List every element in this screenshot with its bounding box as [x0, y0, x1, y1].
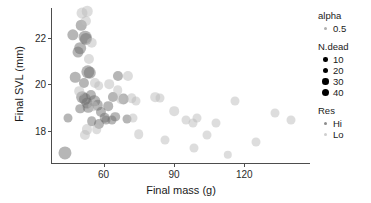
scatter-point [87, 37, 98, 48]
scatter-point [75, 104, 85, 114]
scatter-point [113, 71, 123, 81]
scatter-point [58, 146, 71, 159]
legend-label: 40 [333, 87, 344, 98]
x-axis-line [51, 163, 310, 164]
y-tick-label: 22 [35, 33, 46, 44]
x-tick-label: 60 [98, 169, 109, 180]
scatter-plot-figure: Final SVL (mm) 182022 6090120 Final mass… [0, 0, 371, 203]
scatter-point [132, 96, 141, 105]
scatter-point [67, 29, 78, 40]
x-tick-mark [174, 164, 175, 167]
legend-key-dot-icon [318, 57, 333, 62]
x-tick-label: 120 [236, 169, 253, 180]
scatter-point [160, 135, 169, 144]
y-axis-label: Final SVL (mm) [13, 24, 25, 144]
legend-label: Hi [333, 118, 342, 129]
legend-item-res-lo[interactable]: Lo [318, 129, 371, 140]
legend-label: Lo [333, 129, 344, 140]
legend-group-ndead: N.dead 10 20 30 [318, 41, 371, 98]
scatter-point [202, 131, 211, 140]
scatter-point [74, 86, 84, 96]
scatter-point [212, 118, 221, 127]
scatter-point [83, 67, 95, 79]
legend-key-dot-icon [318, 133, 333, 136]
scatter-point [107, 116, 116, 125]
scatter-point [193, 113, 202, 122]
legend-title-alpha: alpha [318, 10, 371, 21]
scatter-point [252, 138, 261, 147]
x-tick-mark [104, 164, 105, 167]
legend-item-ndead-0[interactable]: 10 [318, 54, 371, 65]
scatter-point [94, 81, 104, 91]
legend-key-dot-icon [318, 89, 333, 97]
scatter-point [189, 143, 198, 152]
scatter-point [287, 116, 296, 125]
scatter-point [103, 102, 113, 112]
legend-group-alpha: alpha 0.5 [318, 10, 371, 34]
scatter-point [230, 96, 239, 105]
legend-key-dot-icon [318, 78, 333, 85]
legend-item-ndead-3[interactable]: 40 [318, 87, 371, 98]
scatter-point [224, 151, 232, 159]
legend-title-ndead: N.dead [318, 41, 371, 52]
x-tick-mark [244, 164, 245, 167]
x-axis-label: Final mass (g) [52, 184, 310, 196]
scatter-point [169, 106, 179, 116]
legend-label: 20 [333, 65, 344, 76]
legend-group-res: Res Hi Lo [318, 105, 371, 140]
scatter-point [155, 94, 164, 103]
scatter-point [134, 129, 144, 139]
legend-key-dot-icon [318, 68, 333, 74]
legend-item-ndead-1[interactable]: 20 [318, 65, 371, 76]
y-tick-label: 20 [35, 79, 46, 90]
legend-item-alpha-0[interactable]: 0.5 [318, 23, 371, 34]
scatter-point [128, 113, 137, 122]
scatter-point [73, 46, 84, 57]
legend-key-dot-icon [318, 27, 333, 30]
scatter-point [88, 102, 98, 112]
legend-item-ndead-2[interactable]: 30 [318, 76, 371, 87]
scatter-point [84, 54, 94, 64]
x-tick-label: 90 [168, 169, 179, 180]
scatter-point [64, 113, 73, 122]
legend-label: 0.5 [333, 23, 346, 34]
legend-label: 30 [333, 76, 344, 87]
scatter-point [80, 130, 90, 140]
legend-label: 10 [333, 54, 344, 65]
y-tick-label: 18 [35, 125, 46, 136]
scatter-point [123, 71, 133, 81]
scatter-point [92, 125, 102, 135]
legend-title-res: Res [318, 105, 371, 116]
scatter-point [116, 95, 126, 105]
scatter-point [113, 85, 123, 95]
legend-key-dot-icon [318, 122, 333, 125]
scatter-point [81, 16, 91, 26]
plot-panel [52, 8, 310, 163]
legend-item-res-hi[interactable]: Hi [318, 118, 371, 129]
legend: alpha 0.5 N.dead 10 20 [318, 10, 371, 147]
scatter-point [270, 109, 279, 118]
